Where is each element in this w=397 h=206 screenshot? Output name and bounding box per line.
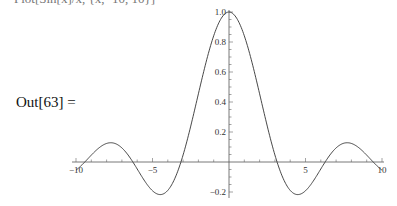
x-tick-label: 10 (378, 165, 388, 175)
y-tick-label: 0.8 (215, 37, 227, 47)
x-tick-label: 5 (303, 165, 308, 175)
sinc-plot: −10−5510−0.20.20.40.60.81.0 (0, 0, 397, 206)
y-tick-label: 0.2 (215, 127, 226, 137)
y-tick-label: 1.0 (215, 7, 227, 17)
y-tick-label: 0.4 (215, 97, 227, 107)
y-tick-label: −0.2 (210, 187, 226, 197)
tick-labels: −10−5510−0.20.20.40.60.81.0 (69, 7, 387, 197)
axes (72, 10, 384, 198)
y-tick-label: 0.6 (215, 67, 227, 77)
x-tick-label: −5 (148, 165, 158, 175)
